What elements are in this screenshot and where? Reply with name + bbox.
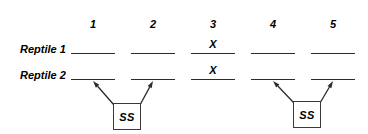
arrow-ss1-to-col153 (140, 81, 153, 105)
reptile-allele-diagram: 12345 Reptile 1Reptile 2 XX SSSS (0, 0, 368, 134)
ss-box-label-2: SS (299, 109, 314, 121)
column-header-3: 3 (203, 18, 223, 30)
arrow-ss1-to-col93 (93, 81, 114, 105)
row-label-1: Reptile 1 (20, 43, 66, 55)
blank-line-r2-c5 (311, 79, 355, 80)
x-mark-r1-c3: X (205, 38, 221, 50)
column-header-4: 4 (263, 18, 283, 30)
x-mark-r2-c3: X (205, 64, 221, 76)
ss-box-2: SS (293, 101, 321, 128)
arrow-ss2-to-col273 (273, 81, 294, 103)
blank-line-r1-c4 (251, 53, 295, 54)
blank-line-r1-c1 (71, 53, 115, 54)
column-header-1: 1 (83, 18, 103, 30)
blank-line-r2-c2 (131, 79, 175, 80)
ss-box-1: SS (113, 103, 141, 130)
ss-box-label-1: SS (119, 111, 134, 123)
column-header-2: 2 (143, 18, 163, 30)
blank-line-r2-c1 (71, 79, 115, 80)
arrow-ss2-to-col333 (320, 81, 333, 103)
row-label-2: Reptile 2 (20, 69, 66, 81)
blank-line-r1-c3 (191, 53, 235, 54)
blank-line-r2-c3 (191, 79, 235, 80)
column-header-5: 5 (323, 18, 343, 30)
blank-line-r1-c5 (311, 53, 355, 54)
blank-line-r2-c4 (251, 79, 295, 80)
blank-line-r1-c2 (131, 53, 175, 54)
